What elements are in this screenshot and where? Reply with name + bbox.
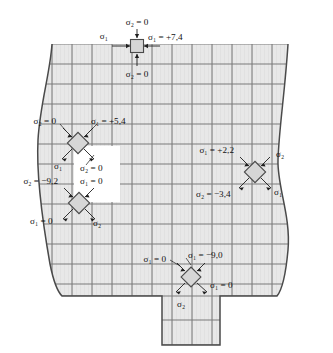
label-top-sigma1-left: σ₁ — [100, 31, 108, 41]
label-bottom-sigma1-right: σ₁ = 0 — [210, 280, 233, 290]
figure-canvas: σ₂ = 0 σ₁ σ₁ = +7,4 σ₂ = 0 σ₂ = 0 σ₁ = +… — [0, 0, 333, 353]
label-ll-sigma2-upperleft: σ₂ = −9,2 — [23, 176, 58, 186]
label-ll-sigma2-lowerright: σ₂ — [93, 218, 101, 228]
label-ul-sigma2-upperleft: σ₂ = 0 — [33, 116, 56, 126]
stress-diagram-svg: σ₂ = 0 σ₁ σ₁ = +7,4 σ₂ = 0 σ₂ = 0 σ₁ = +… — [0, 0, 333, 353]
label-right-sigma1-upperleft: σ₁ = +2,2 — [199, 145, 234, 155]
label-top-sigma1-right: σ₁ = +7,4 — [148, 32, 183, 42]
label-top-sigma2-top: σ₂ = 0 — [126, 17, 149, 27]
label-ul-sigma1-lowerleft: σ₁ — [54, 161, 62, 171]
label-top-sigma2-bottom: σ₂ = 0 — [126, 69, 149, 79]
label-ul-sigma2-lowerright: σ₂ = 0 — [80, 163, 103, 173]
label-ul-sigma1-upperright: σ₁ = +5,4 — [91, 116, 126, 126]
element-top-square[interactable] — [131, 40, 144, 53]
label-right-sigma2-lowerleft: σ₂ = −3,4 — [196, 189, 231, 199]
label-ll-sigma1-upperright: σ₁ = 0 — [80, 176, 103, 186]
label-bottom-sigma2-lowerleft: σ₂ — [177, 299, 185, 309]
body-with-mesh — [20, 40, 312, 352]
label-right-sigma2-upperright: σ₂ — [276, 149, 284, 159]
label-right-sigma1-lowerright: σ₁ — [274, 187, 282, 197]
label-bottom-sigma1-upperright: σ₁ = −9,0 — [188, 250, 223, 260]
label-bottom-sigma1-upperleft: σ₁ = 0 — [143, 254, 166, 264]
label-ll-sigma1-lowerleft: σ₁ = 0 — [30, 216, 53, 226]
